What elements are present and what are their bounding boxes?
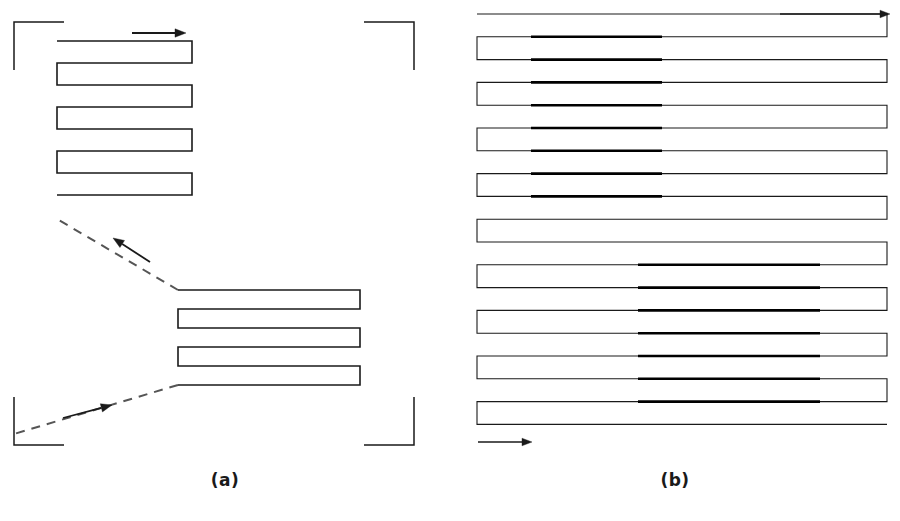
scan-direction-arrow-bottom-head: [522, 438, 532, 446]
panel-a-diagram: [0, 0, 450, 521]
panel-b-caption: (b): [450, 470, 900, 490]
panel-a-caption: (a): [0, 470, 450, 490]
bold-region-lower-middle: [638, 265, 820, 402]
reposition-arrow-bottom-shaft: [63, 408, 101, 418]
figure-root: (a) (b): [0, 0, 900, 521]
reposition-arrow-middle-shaft: [122, 244, 150, 262]
arrow-group: [63, 29, 186, 418]
scan-direction-arrow-top-head: [175, 29, 186, 37]
scan-direction-arrow-top: [780, 10, 890, 18]
panel-b-diagram: [450, 0, 900, 521]
upper-scan-block: [57, 41, 192, 195]
reposition-arrow-middle: [113, 238, 150, 262]
reposition-dash-upper: [57, 219, 178, 290]
full-field-scan-block: [477, 14, 887, 424]
panel-b: (b): [450, 0, 900, 521]
bold-region-upper-left: [531, 37, 662, 197]
scan-block-group: [57, 41, 360, 385]
corner-bracket-top-right: [364, 22, 414, 70]
scan-block-group: [477, 14, 887, 424]
reposition-arrow-middle-head: [113, 238, 125, 248]
panel-a: (a): [0, 0, 450, 521]
scan-direction-arrow-top: [132, 29, 186, 37]
lower-scan-block: [178, 290, 360, 385]
scan-direction-arrow-bottom: [478, 438, 532, 446]
reposition-arrow-bottom: [63, 404, 112, 418]
corner-bracket-bottom-right: [364, 397, 414, 445]
scan-direction-arrow-top-head: [880, 10, 890, 18]
reposition-arrow-bottom-head: [100, 404, 112, 412]
reposition-dash-group: [14, 219, 178, 434]
arrow-group: [478, 10, 890, 446]
corner-bracket-bottom-left: [14, 397, 64, 445]
